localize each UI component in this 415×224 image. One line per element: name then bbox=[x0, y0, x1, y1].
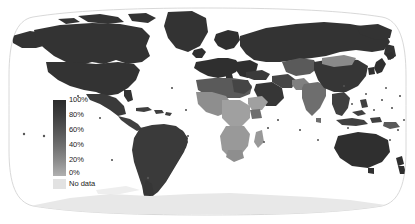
legend-tick-100: 100% bbox=[69, 96, 88, 104]
legend-gradient-bar bbox=[53, 100, 66, 176]
legend-tick-20: 20% bbox=[69, 156, 84, 164]
legend-nodata-swatch bbox=[53, 179, 66, 189]
legend-tick-40: 40% bbox=[69, 141, 84, 149]
legend-nodata-label: No data bbox=[69, 180, 95, 188]
legend: 100% 80% 60% 40% 20% 0% No data bbox=[53, 99, 113, 189]
legend-tick-60: 60% bbox=[69, 126, 84, 134]
legend-tick-0: 0% bbox=[69, 169, 80, 177]
legend-tick-80: 80% bbox=[69, 111, 84, 119]
world-choropleth-map-figure: 100% 80% 60% 40% 20% 0% No data bbox=[0, 0, 415, 224]
